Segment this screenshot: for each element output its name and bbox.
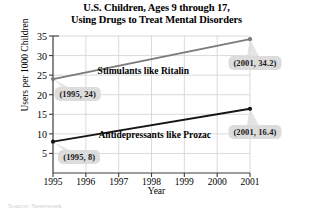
data-point-callout: (1995, 8): [58, 150, 100, 164]
x-tick-label: 1999: [175, 177, 194, 187]
chart-figure: U.S. Children, Ages 9 through 17, Using …: [0, 0, 313, 213]
y-tick-label: 25: [37, 70, 47, 81]
data-point-callout: (2001, 16.4): [228, 125, 281, 139]
x-tick-label: 2000: [208, 177, 227, 187]
x-tick-label: 1995: [44, 177, 63, 187]
y-tick-label: 35: [37, 31, 47, 42]
y-axis-title: Users per 1000 Children: [20, 0, 30, 135]
plot-area: 5101520253035 19951996199719981999200020…: [53, 36, 250, 173]
chart-title-line-1: U.S. Children, Ages 9 through 17,: [0, 2, 313, 14]
x-tick-label: 1996: [76, 177, 95, 187]
y-tick-label: 15: [37, 109, 47, 120]
x-tick-label: 1998: [142, 177, 161, 187]
y-tick-label: 20: [37, 89, 47, 100]
series-annotation: Antidepressants like Prozac: [98, 130, 211, 140]
data-point-callout: (1995, 24): [54, 87, 100, 101]
y-tick-label: 5: [42, 148, 47, 159]
x-axis-title: Year: [0, 186, 313, 196]
data-point-callout: (2001, 34.2): [228, 56, 281, 70]
x-tick-label: 1997: [109, 177, 128, 187]
chart-title: U.S. Children, Ages 9 through 17, Using …: [0, 2, 313, 26]
y-tick-label: 30: [37, 50, 47, 61]
series-annotation: Stimulants like Ritalin: [98, 66, 189, 76]
y-tick-label: 10: [37, 128, 47, 139]
chart-title-line-2: Using Drugs to Treat Mental Disorders: [0, 14, 313, 26]
source-note: Source: Newsweek: [8, 202, 62, 210]
x-tick-label: 2001: [241, 177, 260, 187]
